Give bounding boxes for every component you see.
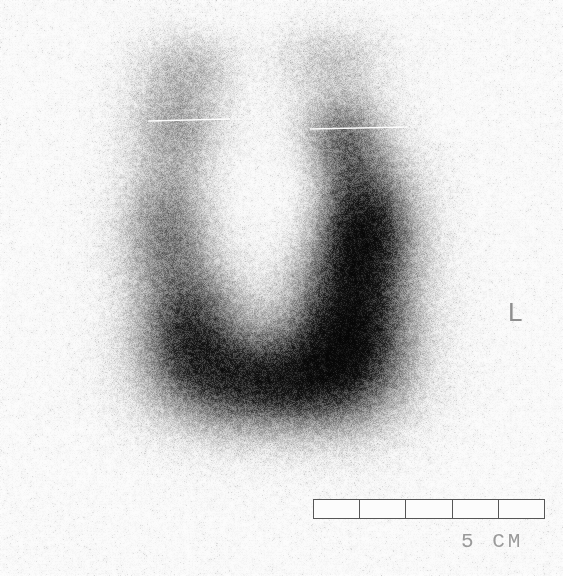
scale-bar-label: 5 CM	[461, 531, 523, 552]
scale-bar-segment	[499, 500, 544, 518]
scale-bar-segment	[360, 500, 406, 518]
laterality-marker-left: L	[508, 299, 523, 325]
scale-bar-segment	[406, 500, 452, 518]
scintigraphy-image-viewport: L 5 CM	[0, 0, 563, 576]
scale-bar-segment	[453, 500, 499, 518]
scale-bar-segment	[314, 500, 360, 518]
scale-bar	[313, 499, 545, 519]
scintigraphy-scan-image	[0, 0, 563, 576]
